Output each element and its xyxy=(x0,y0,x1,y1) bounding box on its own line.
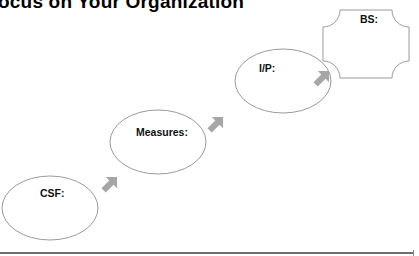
ip-label: I/P: xyxy=(259,62,275,74)
divider-end-tick xyxy=(413,250,414,256)
arrow-up-right-icon xyxy=(98,171,123,196)
flow-diagram xyxy=(0,0,419,256)
bottom-divider xyxy=(0,252,414,254)
csf-label: CSF: xyxy=(40,187,65,199)
bs-label: BS: xyxy=(360,13,378,25)
csf-ellipse xyxy=(2,176,98,240)
arrow-up-right-icon xyxy=(204,111,229,136)
measures-ellipse xyxy=(110,110,206,174)
measures-label: Measures: xyxy=(136,126,188,138)
